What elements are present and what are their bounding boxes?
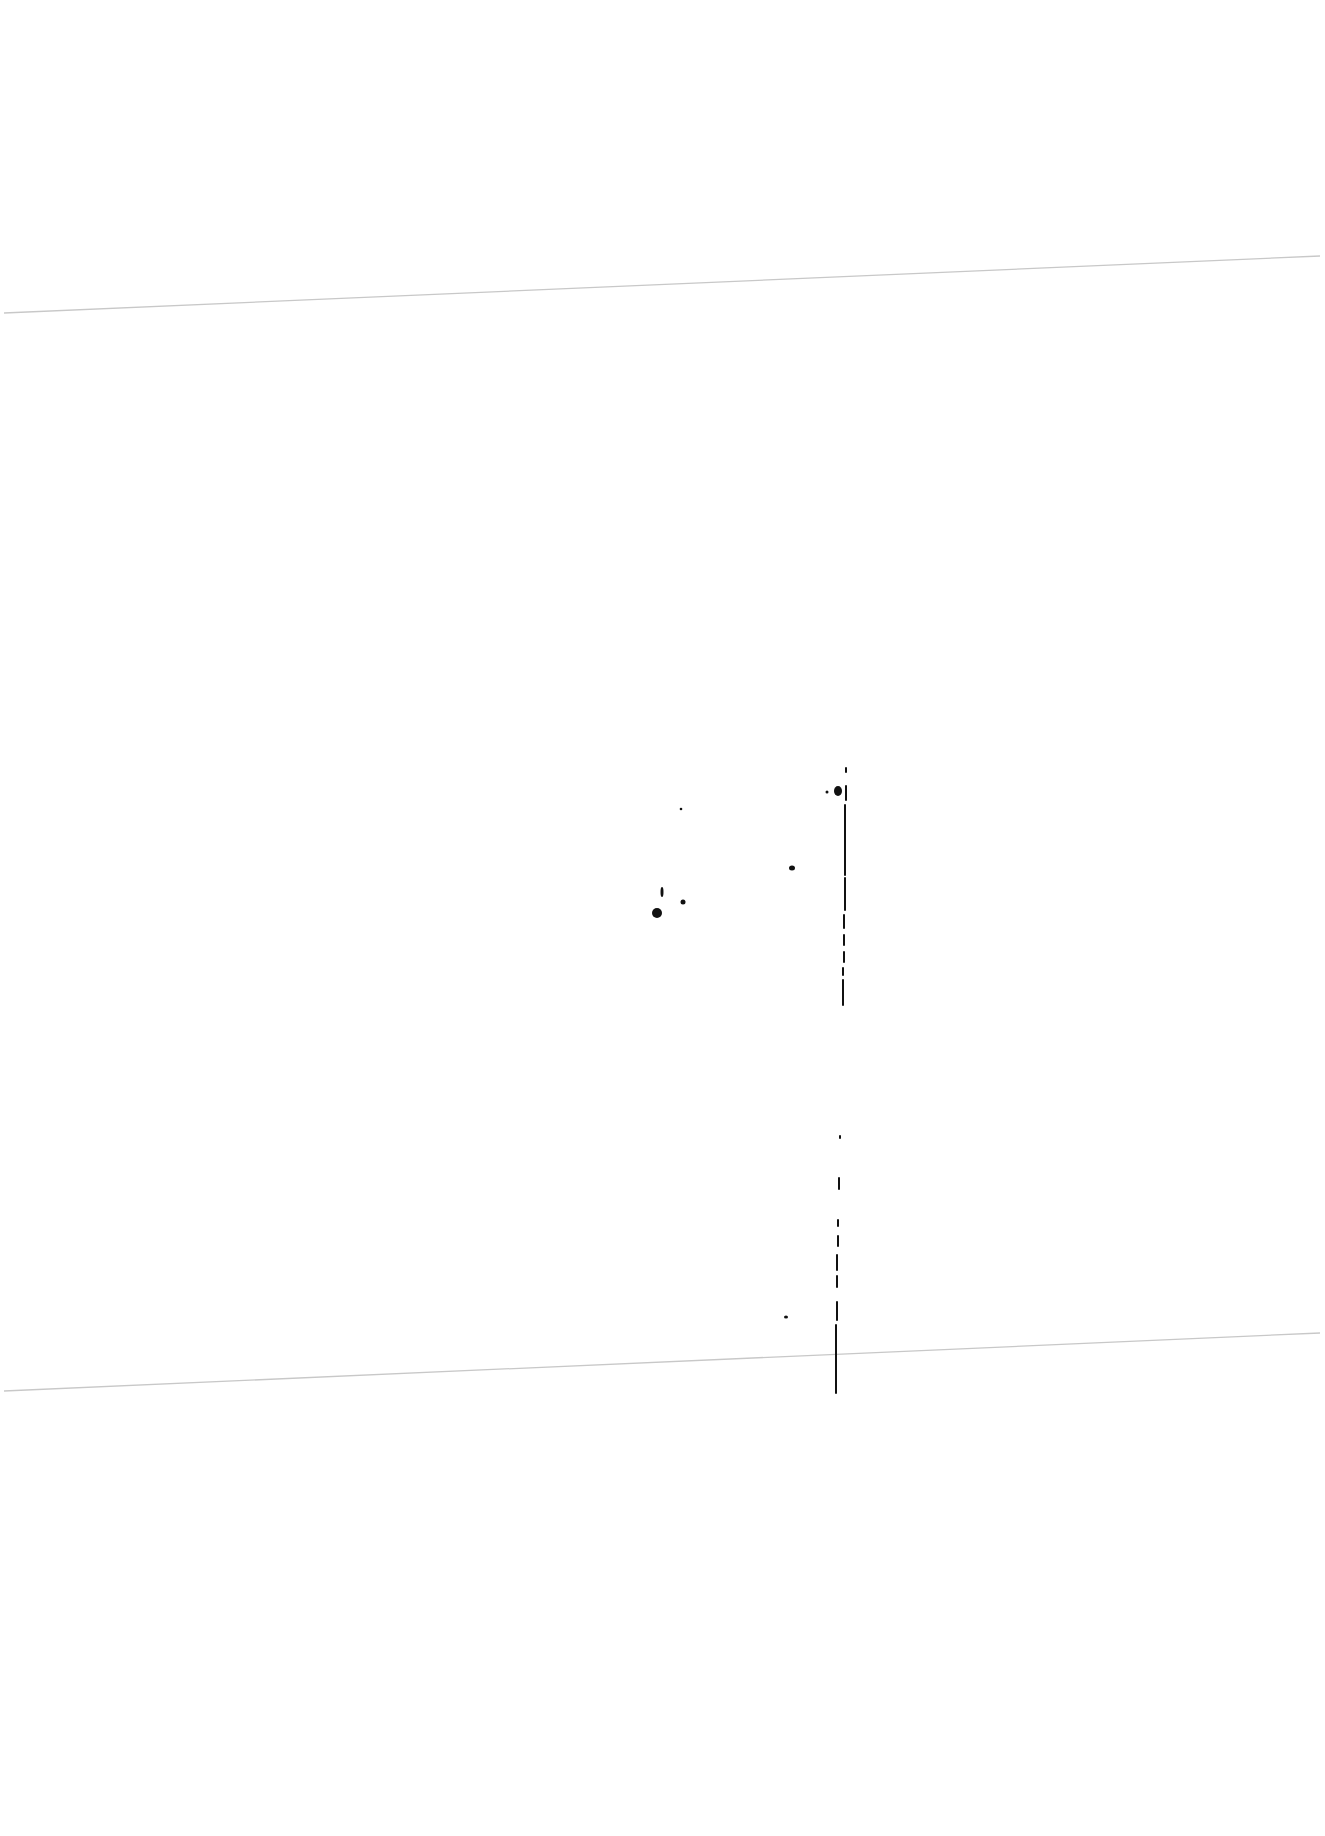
fold-line [4, 256, 1320, 313]
speckle [834, 786, 842, 796]
page-marks [0, 0, 1325, 1836]
fold-lines [4, 256, 1320, 1391]
speckle [681, 900, 686, 905]
speckle [784, 1315, 788, 1318]
speckle [680, 808, 683, 811]
speckle [789, 866, 795, 871]
scanned-page [0, 0, 1325, 1836]
vertical-scan-artifact [836, 768, 846, 1393]
scan-speckles [652, 786, 842, 1319]
speckle [661, 887, 664, 897]
fold-line [4, 1333, 1320, 1391]
speckle [652, 908, 662, 918]
speckle [826, 791, 829, 794]
